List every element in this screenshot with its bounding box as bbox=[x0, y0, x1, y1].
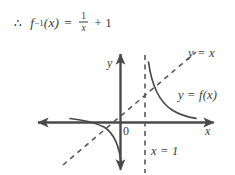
figure-container: ∴ f−1(x) = 1 x + 1 y x 0 bbox=[0, 0, 235, 175]
origin-label: 0 bbox=[123, 124, 129, 139]
identity-line-label: y = x bbox=[188, 46, 215, 61]
function-curve-lower-left-branch bbox=[70, 119, 122, 167]
x-axis-label: x bbox=[205, 124, 211, 139]
y-axis-label: y bbox=[107, 56, 113, 71]
function-curve-label: y = f(x) bbox=[178, 88, 217, 103]
asymptote-label: x = 1 bbox=[151, 144, 178, 159]
